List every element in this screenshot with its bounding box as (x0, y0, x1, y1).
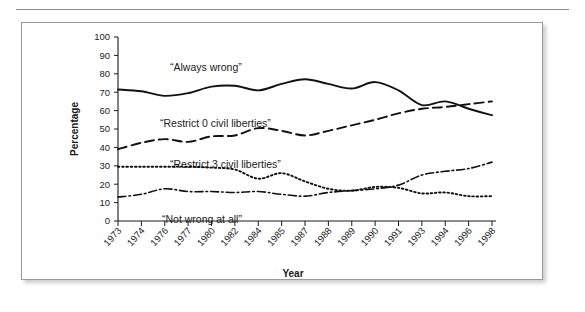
y-tick-label: 30 (99, 160, 110, 171)
y-tick-label: 70 (99, 87, 110, 98)
series-annotation-3: “Restrict 3 civil liberties” (170, 158, 281, 170)
y-tick-label: 20 (99, 179, 110, 190)
line-chart: 0102030405060708090100 19731974197619771… (22, 23, 544, 281)
x-tick-label: 1990 (358, 225, 380, 248)
x-tick-label: 1996 (452, 225, 474, 248)
x-tick-label: 1984 (241, 225, 263, 248)
x-axis-title: Year (282, 268, 303, 279)
x-tick-label: 1993 (405, 225, 427, 248)
y-tick-label: 50 (99, 123, 110, 134)
page-top-rule (16, 9, 569, 10)
x-tick-label: 1987 (288, 225, 310, 248)
y-tick-marks (114, 37, 118, 221)
x-tick-label: 1982 (218, 225, 240, 248)
x-tick-label: 1980 (195, 225, 217, 248)
page-root: 0102030405060708090100 19731974197619771… (0, 0, 585, 312)
y-tick-label: 80 (99, 68, 110, 79)
series-line-3 (118, 167, 492, 197)
y-tick-label: 90 (99, 50, 110, 61)
series-lines-group (118, 79, 492, 197)
x-tick-labels: 1973197419761977198019821984198519871988… (101, 225, 497, 248)
y-axis-title: Percentage (69, 102, 80, 156)
x-tick-label: 1973 (101, 225, 123, 248)
y-tick-label: 40 (99, 142, 110, 153)
y-tick-label: 60 (99, 105, 110, 116)
x-tick-label: 1985 (265, 225, 287, 248)
series-annotation-4: “Not wrong at all” (162, 213, 242, 225)
series-line-1 (118, 79, 492, 115)
plot-area: 0102030405060708090100 19731974197619771… (22, 23, 542, 279)
x-tick-label: 1991 (382, 225, 404, 248)
x-tick-label: 1988 (312, 225, 334, 248)
y-tick-labels: 0102030405060708090100 (94, 31, 110, 226)
y-tick-label: 0 (105, 215, 110, 226)
y-tick-label: 10 (99, 197, 110, 208)
series-annotation-2: “Restrict 0 civil liberties” (160, 117, 271, 129)
x-tick-label: 1976 (148, 225, 170, 248)
x-tick-label: 1998 (475, 225, 497, 248)
x-tick-label: 1989 (335, 225, 357, 248)
series-annotation-1: “Always wrong” (170, 61, 242, 73)
y-tick-label: 100 (94, 31, 110, 42)
x-tick-label: 1977 (171, 225, 193, 248)
x-tick-label: 1994 (428, 225, 450, 248)
x-tick-label: 1974 (125, 225, 147, 248)
figure-panel: 0102030405060708090100 19731974197619771… (21, 22, 543, 280)
